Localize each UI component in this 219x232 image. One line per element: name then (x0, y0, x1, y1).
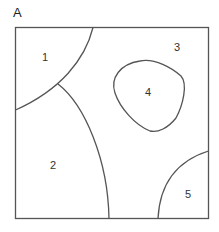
region-1-label: 1 (42, 51, 48, 63)
region-5-label: 5 (185, 188, 191, 200)
region-2-label: 2 (50, 159, 56, 171)
panel-label: A (13, 5, 22, 20)
boundary-region-2 (58, 84, 109, 219)
region-4-label: 4 (145, 86, 151, 98)
region-diagram: A 1 2 3 4 5 (0, 0, 219, 232)
boundary-region-1 (16, 28, 94, 111)
region-3-label: 3 (174, 41, 180, 53)
boundary-region-5 (158, 151, 209, 219)
